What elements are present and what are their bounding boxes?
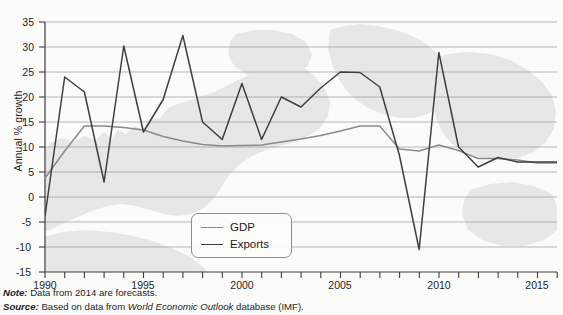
legend-item-gdp[interactable]: GDP bbox=[192, 219, 291, 236]
legend-swatch-exports bbox=[201, 244, 223, 245]
footnote-source-text-a: Based on data from bbox=[39, 301, 128, 312]
footnote-source-lead: Source: bbox=[3, 301, 39, 312]
y-axis-title: Annual % growth bbox=[12, 51, 24, 211]
footnote-note-lead: Note: bbox=[3, 287, 28, 298]
footnote-note: Note: Data from 2014 are forecasts. bbox=[3, 286, 559, 300]
x-axis-ticks bbox=[45, 272, 557, 278]
y-tick-label: -10 bbox=[1, 241, 31, 253]
y-tick-label: -15 bbox=[1, 266, 31, 278]
chart-plot-area: 35 30 25 20 15 10 5 0 -5 -10 -15 1990 19… bbox=[0, 0, 563, 282]
chart-figure: 35 30 25 20 15 10 5 0 -5 -10 -15 1990 19… bbox=[0, 0, 563, 315]
chart-legend[interactable]: GDP Exports bbox=[191, 213, 292, 258]
y-tick-label: 35 bbox=[4, 16, 34, 28]
footnote-note-text: Data from 2014 are forecasts. bbox=[28, 287, 158, 298]
legend-label-exports: Exports bbox=[230, 239, 269, 251]
y-axis-ticks bbox=[39, 22, 45, 272]
legend-item-exports[interactable]: Exports bbox=[192, 236, 291, 253]
y-tick-label: -5 bbox=[1, 216, 31, 228]
footnote-source-text-b: database (IMF). bbox=[233, 301, 303, 312]
legend-swatch-gdp bbox=[201, 227, 223, 228]
legend-label-gdp: GDP bbox=[230, 222, 255, 234]
footnote-source: Source: Based on data from World Economi… bbox=[3, 300, 559, 314]
figure-footnotes: Note: Data from 2014 are forecasts. Sour… bbox=[3, 286, 559, 313]
footnote-source-publication: World Economic Outlook bbox=[128, 301, 234, 312]
